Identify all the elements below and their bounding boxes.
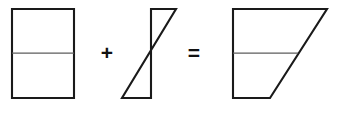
shape-rectangle — [12, 9, 74, 98]
shape-z-shape — [122, 9, 176, 98]
z-shape-outline — [122, 9, 176, 98]
equals-operator: = — [188, 41, 200, 64]
dissection-figure: + = — [0, 0, 337, 117]
shape-trapezoid — [233, 9, 327, 98]
plus-operator: + — [101, 41, 113, 64]
figure-canvas: + = — [0, 0, 337, 117]
